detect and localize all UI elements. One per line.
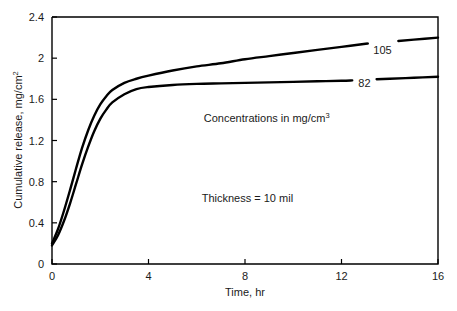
annotation-text: Thickness = 10 mil xyxy=(202,192,293,204)
annotation-2: Thickness = 10 mil xyxy=(202,192,293,204)
y-tick-label: 2 xyxy=(38,52,44,64)
x-tick-label: 12 xyxy=(335,270,347,282)
y-axis-title: Cumulative release, mg/cm2 xyxy=(11,71,24,208)
x-tick-label: 16 xyxy=(432,270,444,282)
annotation-1: Concentrations in mg/cm3 xyxy=(204,111,330,124)
y-tick-label: 0 xyxy=(38,258,44,270)
y-axis-title-superscript: 2 xyxy=(11,71,20,75)
annotation-superscript: 3 xyxy=(325,111,329,120)
x-axis-title: Time, hr xyxy=(225,286,265,298)
x-tick-label: 4 xyxy=(145,270,151,282)
y-tick-label: 0.4 xyxy=(29,217,44,229)
x-tick-label: 8 xyxy=(242,270,248,282)
y-tick-label: 1.2 xyxy=(29,135,44,147)
y-tick-label: 2.4 xyxy=(29,11,44,23)
curve-label-82: 82 xyxy=(358,77,370,89)
curve-label-105: 105 xyxy=(373,44,391,56)
x-tick-label: 0 xyxy=(49,270,55,282)
y-tick-label: 0.8 xyxy=(29,176,44,188)
y-axis-title-group: Cumulative release, mg/cm2 xyxy=(11,71,24,208)
cumulative-release-chart: 00.40.81.21.622.4 0481216 10582 Concentr… xyxy=(0,0,457,311)
y-axis-title-text: Cumulative release, mg/cm xyxy=(12,75,24,208)
annotation-text: Concentrations in mg/cm xyxy=(204,112,326,124)
chart-figure: 00.40.81.21.622.4 0481216 10582 Concentr… xyxy=(0,0,457,311)
y-tick-label: 1.6 xyxy=(29,93,44,105)
